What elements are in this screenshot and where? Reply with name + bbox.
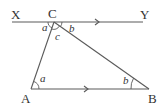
angle-label-xca: a <box>42 21 48 33</box>
label-b: B <box>148 91 157 106</box>
label-a: A <box>21 91 31 106</box>
angle-arc-abc <box>131 78 134 89</box>
angle-label-acb: c <box>55 30 60 42</box>
angle-arc-ycb <box>61 22 63 27</box>
geometry-diagram: X Y C A B a b c a b <box>0 0 159 112</box>
label-x: X <box>11 7 21 22</box>
angle-arc-cab <box>34 81 39 89</box>
angle-label-cab: a <box>40 72 46 84</box>
angle-label-abc: b <box>123 74 129 86</box>
angle-arc-xca <box>48 22 52 28</box>
label-y: Y <box>140 7 150 22</box>
label-c: C <box>48 6 57 21</box>
angle-label-ycb: b <box>69 22 75 34</box>
